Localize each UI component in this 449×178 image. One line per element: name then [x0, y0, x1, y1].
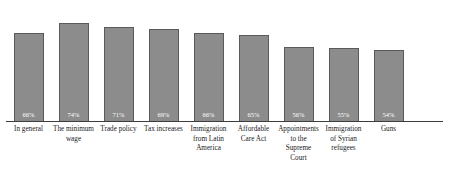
- bar-value-label: 65%: [240, 111, 268, 119]
- category-label-line: America: [182, 144, 235, 154]
- bar-chart: 66% 74% 71% 69% 66% 65%: [0, 0, 449, 178]
- bar[interactable]: 66%: [194, 33, 224, 122]
- bar-slot: 71%: [96, 0, 141, 122]
- x-axis-tick-labels: In general The minimum wage Trade policy…: [0, 125, 449, 177]
- bar[interactable]: 74%: [59, 23, 89, 122]
- bar[interactable]: 55%: [329, 48, 359, 122]
- bar[interactable]: 69%: [149, 29, 179, 122]
- bar-slot: 55%: [321, 0, 366, 122]
- bar-value-label: 71%: [105, 111, 133, 119]
- bar-value-label: 74%: [60, 111, 88, 119]
- bar-slot: 56%: [276, 0, 321, 122]
- bar-value-label: 66%: [195, 111, 223, 119]
- bar-slot: 66%: [6, 0, 51, 122]
- bar[interactable]: 71%: [104, 27, 134, 122]
- category-label-line: wage: [47, 135, 100, 145]
- bar[interactable]: 66%: [14, 33, 44, 122]
- category-label-guns: Guns: [362, 125, 415, 135]
- category-label-line: Court: [272, 154, 325, 164]
- bar-value-label: 55%: [330, 111, 358, 119]
- bar-value-label: 54%: [375, 111, 403, 119]
- bar-value-label: 56%: [285, 111, 313, 119]
- bar-slot: 54%: [366, 0, 411, 122]
- bar-slot: 66%: [186, 0, 231, 122]
- category-label-line: refugees: [317, 144, 370, 154]
- bar-value-label: 69%: [150, 111, 178, 119]
- bar-slot: 69%: [141, 0, 186, 122]
- bar-slot: 74%: [51, 0, 96, 122]
- category-label-line: Guns: [362, 125, 415, 135]
- bar-slot: 65%: [231, 0, 276, 122]
- bar-value-label: 66%: [15, 111, 43, 119]
- x-axis-line: [6, 121, 443, 122]
- plot-area: 66% 74% 71% 69% 66% 65%: [0, 0, 449, 122]
- bar[interactable]: 54%: [374, 50, 404, 122]
- category-label-line: of Syrian: [317, 135, 370, 145]
- bar[interactable]: 65%: [239, 35, 269, 122]
- bar[interactable]: 56%: [284, 47, 314, 122]
